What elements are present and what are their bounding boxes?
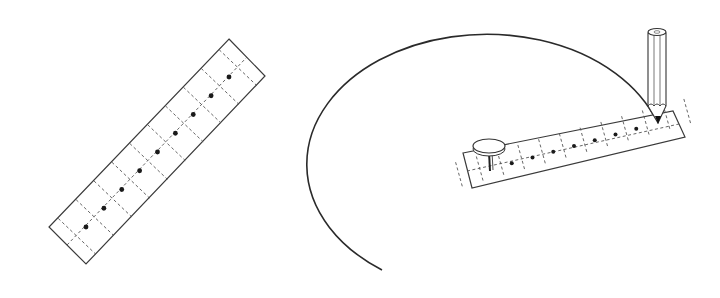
marked-point xyxy=(84,225,89,230)
marked-point xyxy=(173,131,178,136)
marked-point xyxy=(634,127,638,131)
left-paper-strip xyxy=(49,39,265,264)
marked-point xyxy=(119,187,124,192)
marked-point xyxy=(510,161,514,165)
marked-point xyxy=(155,150,160,155)
marked-point xyxy=(551,150,555,154)
marked-point xyxy=(614,133,618,137)
marked-point xyxy=(101,206,106,211)
marked-point xyxy=(531,156,535,160)
marked-point xyxy=(227,75,232,80)
diagram-svg xyxy=(0,0,720,298)
pencil-icon xyxy=(648,29,666,125)
marked-point xyxy=(191,112,196,117)
figure-canvas xyxy=(0,0,720,298)
marked-point xyxy=(593,138,597,142)
marked-point xyxy=(572,144,576,148)
marked-point xyxy=(137,168,142,173)
marked-point xyxy=(209,93,214,98)
